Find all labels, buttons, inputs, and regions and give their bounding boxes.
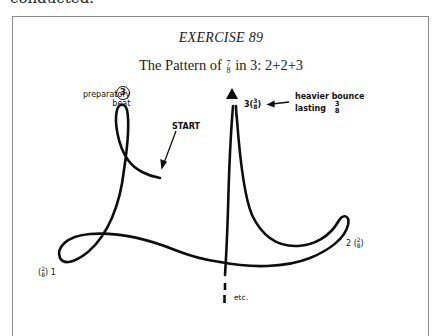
heavier-bounce-note: heavier bounce lasting 38 (295, 92, 364, 115)
beat3-label: 3(38) (244, 98, 261, 110)
beat1-to-beat2-stroke (220, 106, 348, 266)
etc-label: etc. (234, 293, 248, 302)
beat3-downstroke (225, 106, 233, 275)
heavier-arrow-head (268, 102, 274, 107)
start-arrow-line (164, 131, 176, 163)
top-arrow-triangle-icon (226, 88, 238, 99)
start-label: START (172, 122, 200, 131)
preparatory-beat-number: 3 (116, 86, 130, 100)
beat2-label: 2 (28) (346, 237, 364, 249)
beat1-label: (28) 1 (38, 266, 56, 278)
start-arrow-head (161, 160, 166, 168)
